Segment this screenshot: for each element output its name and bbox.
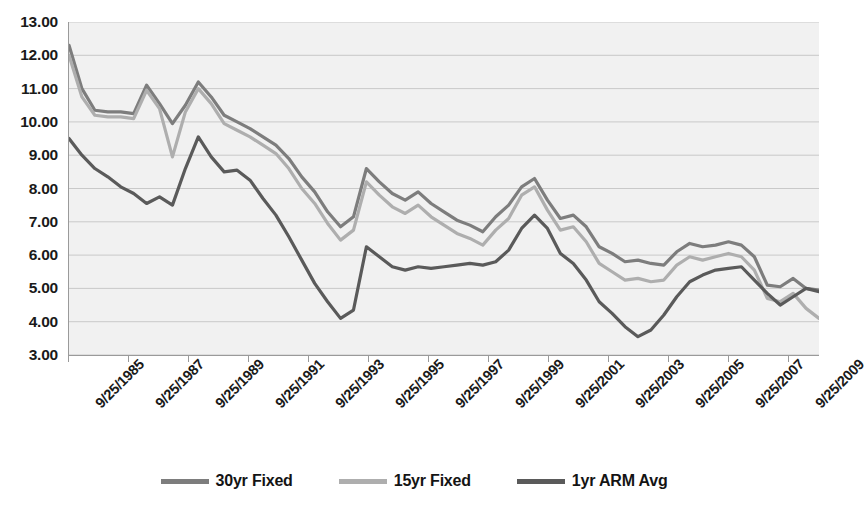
y-axis-tick-label: 4.00 — [29, 313, 58, 331]
y-axis-tick-label: 5.00 — [29, 279, 58, 297]
legend-label: 15yr Fixed — [394, 472, 471, 490]
series-line-30yr-fixed — [69, 45, 819, 290]
legend-line-swatch — [339, 479, 387, 484]
x-axis-tick-label: 9/25/1997 — [452, 356, 507, 411]
y-axis-tick-label: 12.00 — [20, 46, 58, 64]
x-axis-tick-label: 9/25/1993 — [332, 356, 387, 411]
x-axis-tick-label: 9/25/1985 — [92, 356, 147, 411]
x-axis-tick-label: 9/25/2005 — [692, 356, 747, 411]
gridlines — [69, 22, 819, 355]
plot-area — [68, 22, 819, 356]
plot-svg — [69, 22, 819, 355]
y-axis-tick-label: 6.00 — [29, 246, 58, 264]
x-axis-tick-label: 9/25/2001 — [572, 356, 627, 411]
x-axis-tick-label: 9/25/1999 — [512, 356, 567, 411]
legend-item-30yr-fixed[interactable]: 30yr Fixed — [161, 472, 293, 490]
y-axis-tick-label: 8.00 — [29, 180, 58, 198]
x-axis-tick-label: 9/25/1989 — [212, 356, 267, 411]
x-axis-tick-label: 9/25/2009 — [812, 356, 867, 411]
legend-line-swatch — [161, 479, 209, 484]
y-axis-tick-label: 9.00 — [29, 146, 58, 164]
x-axis-tick-label: 9/25/2007 — [752, 356, 807, 411]
y-axis-tick-label: 7.00 — [29, 213, 58, 231]
legend-item-15yr-fixed[interactable]: 15yr Fixed — [339, 472, 471, 490]
legend-label: 1yr ARM Avg — [572, 472, 668, 490]
x-axis-tick-label: 9/25/1991 — [272, 356, 327, 411]
legend-label: 30yr Fixed — [216, 472, 293, 490]
y-axis: 13.0012.0011.0010.009.008.007.006.005.00… — [0, 0, 62, 380]
x-axis-tick-label: 9/25/1995 — [392, 356, 447, 411]
series-line-1yr-arm-avg — [69, 137, 819, 337]
y-axis-tick-label: 13.00 — [20, 13, 58, 31]
chart-legend: 30yr Fixed15yr Fixed1yr ARM Avg — [0, 466, 828, 496]
x-axis-tick-label: 9/25/1987 — [152, 356, 207, 411]
x-axis: 9/25/19859/25/19879/25/19899/25/19919/25… — [0, 356, 828, 456]
series-line-15yr-fixed — [69, 55, 819, 318]
legend-line-swatch — [517, 479, 565, 484]
x-axis-tick-label: 9/25/2003 — [632, 356, 687, 411]
y-axis-tick-label: 10.00 — [20, 113, 58, 131]
y-axis-tick-label: 11.00 — [21, 80, 58, 98]
legend-item-1yr-arm-avg[interactable]: 1yr ARM Avg — [517, 472, 668, 490]
